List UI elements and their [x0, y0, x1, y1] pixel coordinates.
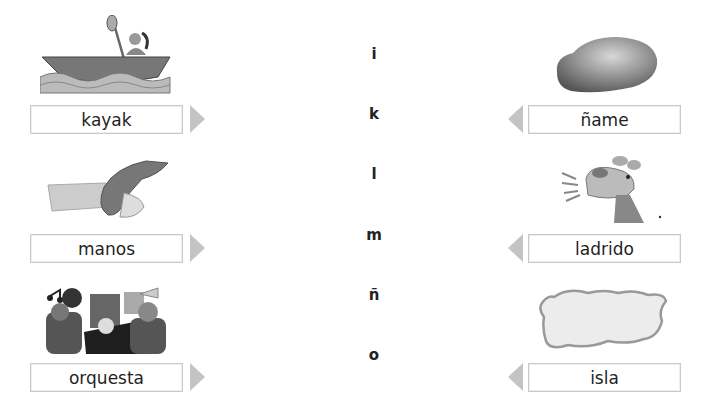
letter-m: m [364, 226, 384, 244]
word-card-orquesta[interactable]: orquesta [30, 363, 183, 392]
arrow-right-icon [190, 105, 205, 133]
yam-image [553, 33, 661, 95]
kayak-image [40, 15, 172, 95]
arrow-left-icon [508, 363, 523, 391]
orchestra-image [44, 282, 168, 354]
word-card-name[interactable]: ñame [528, 105, 681, 134]
word-card-manos[interactable]: manos [30, 234, 183, 263]
island-image [538, 287, 670, 355]
letter-k: k [364, 105, 384, 123]
letter-enye: ñ [364, 286, 384, 304]
letter-o: o [364, 346, 384, 364]
letter-i: i [364, 45, 384, 63]
arrow-right-icon [190, 363, 205, 391]
word-card-ladrido[interactable]: ladrido [528, 234, 681, 263]
arrow-left-icon [508, 234, 523, 262]
word-card-kayak[interactable]: kayak [30, 105, 183, 134]
word-card-isla[interactable]: isla [528, 363, 681, 392]
letter-l: l [364, 165, 384, 183]
barking-dog-image [560, 155, 670, 227]
arrow-right-icon [190, 234, 205, 262]
arrow-left-icon [508, 105, 523, 133]
hands-image [46, 157, 172, 223]
